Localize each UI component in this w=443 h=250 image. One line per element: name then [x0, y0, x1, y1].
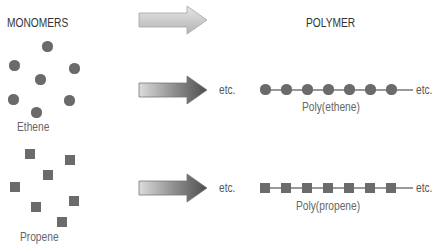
arrow-icon-3: [139, 174, 207, 202]
ethene-unit-icon: [260, 84, 271, 95]
ethene-molecule-icon: [9, 60, 20, 71]
propene-unit-icon: [365, 183, 375, 193]
propene-unit-icon: [281, 183, 291, 193]
propene-molecule-icon: [57, 217, 67, 227]
ethene-unit-icon: [281, 84, 292, 95]
propene-label: Propene: [20, 230, 59, 244]
propene-molecule-icon: [65, 155, 75, 165]
propene-molecule-icon: [31, 202, 41, 212]
propene-molecule-icon: [69, 196, 79, 206]
arrows-layer: [0, 0, 443, 250]
poly-propene-etc-right: etc.: [416, 181, 432, 195]
ethene-molecule-icon: [35, 74, 46, 85]
propene-unit-icon: [323, 183, 333, 193]
arrow-icon-1: [139, 6, 207, 34]
poly-propene-etc-left: etc.: [219, 181, 235, 195]
ethene-molecule-icon: [42, 41, 53, 52]
propene-unit-icon: [260, 183, 270, 193]
ethene-molecule-icon: [64, 95, 75, 106]
propene-molecule-icon: [10, 182, 20, 192]
propene-molecule-icon: [25, 149, 35, 159]
poly-propene-label: Poly(propene): [296, 199, 360, 213]
ethene-molecule-icon: [69, 63, 80, 74]
ethene-molecule-icon: [31, 107, 42, 118]
ethene-unit-icon: [386, 84, 397, 95]
ethene-label: Ethene: [17, 120, 49, 134]
poly-ethene-etc-left: etc.: [219, 83, 235, 97]
propene-unit-icon: [386, 183, 396, 193]
poly-ethene-label: Poly(ethene): [302, 100, 360, 114]
poly-ethene-etc-right: etc.: [416, 83, 432, 97]
propene-unit-icon: [302, 183, 312, 193]
ethene-unit-icon: [344, 84, 355, 95]
ethene-unit-icon: [365, 84, 376, 95]
arrow-icon-2: [139, 76, 207, 104]
propene-unit-icon: [344, 183, 354, 193]
ethene-unit-icon: [323, 84, 334, 95]
propene-molecule-icon: [43, 170, 53, 180]
ethene-molecule-icon: [8, 94, 19, 105]
ethene-unit-icon: [302, 84, 313, 95]
